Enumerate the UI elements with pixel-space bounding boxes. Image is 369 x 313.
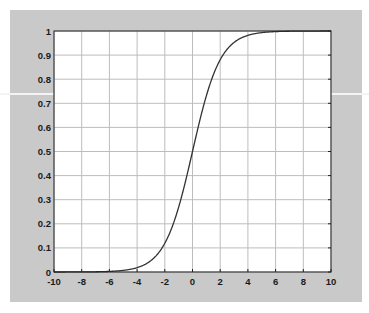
y-tick-label: 0.6 [38, 122, 51, 133]
y-tick-label: 1 [46, 26, 52, 37]
y-tick-label: 0.7 [38, 98, 51, 109]
y-tick-label: 0.3 [38, 194, 51, 205]
x-tick-label: 10 [326, 276, 337, 287]
y-tick-label: 0.5 [38, 146, 52, 157]
y-tick-label: 0.9 [38, 50, 51, 61]
x-tick-label: 2 [218, 276, 223, 287]
x-tick-label: -2 [161, 276, 169, 287]
y-tick-label: 0.1 [38, 242, 52, 253]
x-tick-label: -6 [105, 276, 113, 287]
sigmoid-chart: 00.10.20.30.40.50.60.70.80.91 -10-8-6-4-… [0, 0, 369, 313]
x-tick-label: 0 [190, 276, 195, 287]
y-tick-label: 0.8 [38, 74, 51, 85]
y-tick-label: 0.2 [38, 218, 51, 229]
x-tick-label: -10 [47, 276, 61, 287]
x-tick-label: -4 [133, 276, 142, 287]
x-tick-label: 8 [301, 276, 306, 287]
x-tick-label: 4 [245, 276, 251, 287]
x-tick-label: -8 [77, 276, 85, 287]
y-tick-label: 0.4 [38, 170, 52, 181]
x-tick-label: 6 [273, 276, 278, 287]
